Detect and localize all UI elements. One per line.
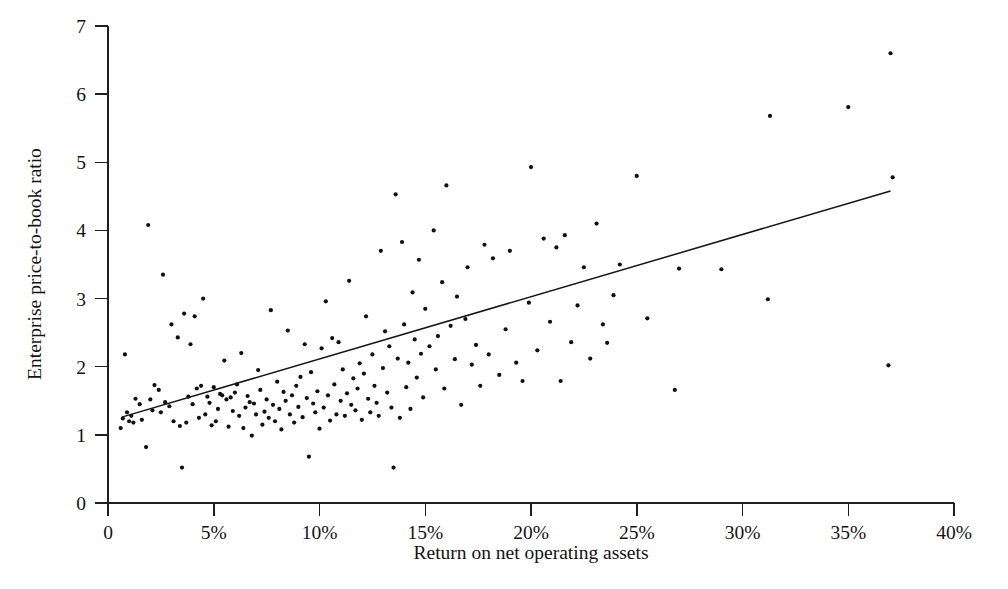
data-point <box>417 258 421 262</box>
data-point <box>324 299 328 303</box>
data-point <box>252 401 256 405</box>
data-point <box>334 412 338 416</box>
data-point <box>133 397 137 401</box>
data-point <box>351 376 355 380</box>
data-point <box>719 267 723 271</box>
data-point <box>220 393 224 397</box>
data-point <box>381 366 385 370</box>
data-point <box>250 433 254 437</box>
x-tick-label: 35% <box>830 522 866 543</box>
data-point <box>569 340 573 344</box>
data-point <box>396 356 400 360</box>
data-point <box>231 409 235 413</box>
axes-group <box>108 26 954 503</box>
data-point <box>389 406 393 410</box>
data-point <box>355 386 359 390</box>
data-point <box>159 410 163 414</box>
data-point <box>292 420 296 424</box>
data-point <box>320 346 324 350</box>
data-point <box>432 228 436 232</box>
data-point <box>449 324 453 328</box>
data-point <box>239 351 243 355</box>
y-tick-label: 6 <box>76 84 86 105</box>
data-point <box>328 418 332 422</box>
data-point <box>575 303 579 307</box>
data-point <box>296 405 300 409</box>
data-point <box>846 105 850 109</box>
data-point <box>123 352 127 356</box>
data-point <box>267 416 271 420</box>
data-point <box>345 391 349 395</box>
data-point <box>167 404 171 408</box>
data-point <box>404 385 408 389</box>
data-point <box>368 410 372 414</box>
data-point <box>182 311 186 315</box>
data-point <box>237 414 241 418</box>
data-point <box>453 357 457 361</box>
data-point <box>491 256 495 260</box>
data-point <box>144 445 148 449</box>
data-point <box>309 370 313 374</box>
x-tick-label: 30% <box>725 522 761 543</box>
data-point <box>554 245 558 249</box>
data-point <box>178 424 182 428</box>
data-point <box>138 402 142 406</box>
data-point <box>594 222 598 226</box>
data-point <box>203 412 207 416</box>
data-point <box>195 386 199 390</box>
data-point <box>410 290 414 294</box>
data-point <box>307 455 311 459</box>
data-point <box>377 414 381 418</box>
data-point <box>161 273 165 277</box>
data-point <box>504 327 508 331</box>
data-point <box>582 265 586 269</box>
x-tick-label: 15% <box>407 522 443 543</box>
data-point <box>379 249 383 253</box>
x-tick-label: 0 <box>103 522 113 543</box>
y-tick-label: 1 <box>76 425 86 446</box>
data-point <box>226 425 230 429</box>
data-point <box>245 394 249 398</box>
data-point <box>326 393 330 397</box>
data-point <box>766 297 770 301</box>
data-point <box>281 390 285 394</box>
data-point <box>277 407 281 411</box>
y-tick-label: 4 <box>76 220 86 241</box>
data-point <box>408 407 412 411</box>
data-point <box>258 388 262 392</box>
chart-figure: 01234567 05%10%15%20%25%30%35%40% Return… <box>0 0 1008 589</box>
data-point <box>360 418 364 422</box>
data-point <box>207 401 211 405</box>
data-point <box>222 358 226 362</box>
data-point <box>362 371 366 375</box>
data-point <box>465 265 469 269</box>
data-point <box>434 367 438 371</box>
data-point <box>487 352 491 356</box>
data-point <box>303 342 307 346</box>
data-point <box>398 416 402 420</box>
data-point <box>372 384 376 388</box>
y-axis-ticks: 01234567 <box>76 16 108 514</box>
data-point <box>286 329 290 333</box>
data-point <box>269 308 273 312</box>
data-point <box>370 352 374 356</box>
data-point <box>322 406 326 410</box>
data-point <box>171 419 175 423</box>
data-point <box>193 314 197 318</box>
data-point <box>305 396 309 400</box>
x-tick-label: 10% <box>302 522 338 543</box>
data-point <box>330 336 334 340</box>
data-point <box>394 192 398 196</box>
data-point <box>442 386 446 390</box>
data-point <box>497 373 501 377</box>
data-point <box>152 383 156 387</box>
data-point <box>463 317 467 321</box>
data-point <box>440 280 444 284</box>
data-point <box>294 384 298 388</box>
x-tick-label: 20% <box>513 522 549 543</box>
data-point <box>470 363 474 367</box>
data-point <box>315 389 319 393</box>
data-point <box>383 329 387 333</box>
x-tick-label: 40% <box>936 522 972 543</box>
data-point <box>611 293 615 297</box>
